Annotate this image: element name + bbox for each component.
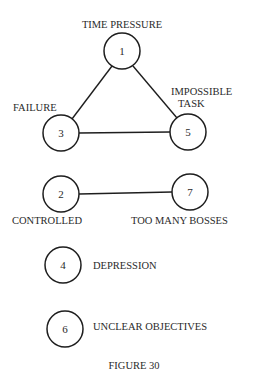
edge-1-3 (72, 66, 112, 119)
network-diagram: 1 TIME PRESSURE 3 FAILURE 5 IMPOSSIBLE T… (0, 0, 263, 378)
figure-caption: FIGURE 30 (108, 360, 159, 371)
node-5-label-line1: IMPOSSIBLE (171, 86, 232, 97)
node-2: 2 (43, 176, 79, 212)
node-5-label-line2: TASK (178, 98, 205, 109)
node-2-number: 2 (58, 188, 64, 200)
node-5: 5 (170, 114, 206, 150)
edge-3-5 (79, 132, 170, 133)
node-4-number: 4 (60, 259, 66, 271)
node-7-number: 7 (187, 186, 193, 198)
node-1-number: 1 (119, 45, 125, 57)
node-3: 3 (43, 115, 79, 151)
node-5-number: 5 (185, 126, 191, 138)
node-7-label: TOO MANY BOSSES (131, 215, 228, 226)
node-4-label: DEPRESSION (93, 260, 157, 271)
node-4: 4 (45, 247, 81, 283)
node-6-label: UNCLEAR OBJECTIVES (93, 321, 207, 332)
node-7: 7 (172, 174, 208, 210)
node-3-number: 3 (58, 127, 64, 139)
node-1: 1 (104, 33, 140, 69)
node-2-label: CONTROLLED (12, 215, 82, 226)
edge-2-7 (79, 192, 172, 194)
node-6-number: 6 (62, 323, 68, 335)
node-3-label: FAILURE (13, 102, 57, 113)
node-1-label: TIME PRESSURE (82, 19, 162, 30)
node-6: 6 (47, 311, 83, 347)
